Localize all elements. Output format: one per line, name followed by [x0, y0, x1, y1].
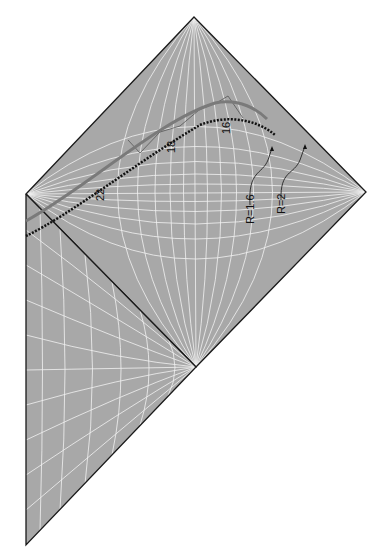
- time-label-22: 22: [94, 189, 106, 201]
- time-label-18: 18: [165, 141, 177, 153]
- penrose-diagram: 22 18 16 R=1.6 R=2: [0, 0, 388, 560]
- svg-text:R=2: R=2: [275, 194, 287, 215]
- time-label-16: 16: [220, 122, 232, 134]
- svg-text:R=1.6: R=1.6: [244, 194, 256, 224]
